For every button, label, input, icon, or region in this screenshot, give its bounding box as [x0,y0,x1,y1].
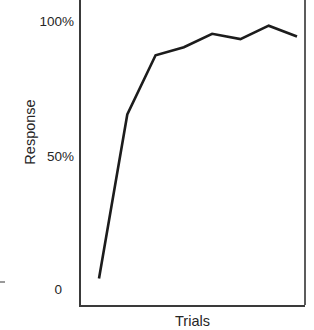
response-series-line [99,26,297,279]
plot-area [0,0,314,330]
axis-lines [80,0,306,306]
learning-curve-chart: 100% 50% 0 Response Trials [0,0,314,330]
